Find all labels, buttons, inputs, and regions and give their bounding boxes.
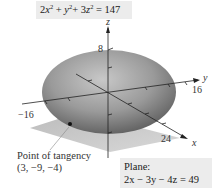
point-of-tangency-label: Point of tangency (3, −9, −4) [17,150,91,174]
point-of-tangency-marker [68,122,72,126]
plane-equation-label: Plane: 2x − 3y − 4z = 49 [124,160,199,186]
plane-title: Plane: [124,160,199,173]
x-axis-label: x [192,137,196,148]
plane-equation: 2x − 3y − 4z = 49 [124,173,199,186]
x-tick-label: 24 [161,133,171,144]
neg-y-tick-label: −16 [18,109,34,120]
y-axis-label: y [203,72,207,83]
z-tick-label: 8 [98,43,103,54]
point-label-title: Point of tangency [17,150,91,162]
y-tick-label: 16 [192,84,202,95]
z-axis-label: z [106,16,110,27]
point-coordinates: (3, −9, −4) [17,162,91,174]
